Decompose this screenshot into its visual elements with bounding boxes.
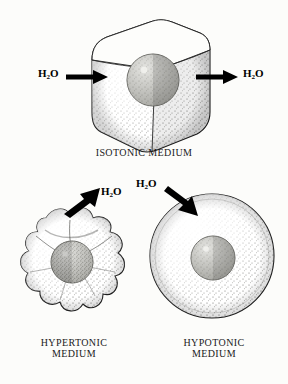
water-out-arrow-hypertonic (62, 182, 106, 220)
nucleus-hypotonic (191, 236, 235, 280)
h2o-text-tail: O (50, 67, 59, 79)
h2o-text-tail: O (148, 177, 157, 189)
panel-hypotonic: H2O HYPOTONIC MEDIUM (140, 178, 288, 384)
h2o-text-tail: O (113, 185, 122, 197)
h2o-subscript: 2 (145, 183, 149, 191)
nucleus-isotonic (127, 54, 179, 106)
panel-hypertonic: H2O HYPERTONIC MEDIUM (0, 178, 148, 384)
caption-hypertonic: HYPERTONIC MEDIUM (4, 337, 144, 359)
hypotonic-cell-figure (140, 188, 288, 333)
h2o-label-hypotonic: H2O (136, 178, 157, 191)
h2o-subscript: 2 (252, 73, 256, 81)
h2o-text: H (243, 67, 252, 79)
h2o-text: H (136, 177, 145, 189)
h2o-label-hypertonic: H2O (101, 186, 122, 199)
caption-hypotonic: HYPOTONIC MEDIUM (144, 337, 284, 359)
hypertonic-cell-figure (0, 200, 148, 345)
osmosis-diagram: H2O H2O ISOTONIC MEDIUM (0, 0, 288, 384)
water-in-arrow-hypotonic (166, 183, 210, 221)
water-in-arrow-isotonic (66, 68, 116, 88)
h2o-text: H (101, 185, 110, 197)
h2o-text-tail: O (255, 67, 264, 79)
water-out-arrow-isotonic (196, 68, 246, 88)
h2o-subscript: 2 (110, 191, 114, 199)
h2o-text: H (38, 67, 47, 79)
nucleus-hypertonic (51, 241, 93, 283)
panel-isotonic: H2O H2O ISOTONIC MEDIUM (0, 0, 288, 170)
h2o-subscript: 2 (47, 73, 51, 81)
h2o-label-isotonic-left: H2O (38, 68, 59, 81)
caption-isotonic: ISOTONIC MEDIUM (44, 147, 244, 158)
h2o-label-isotonic-right: H2O (243, 68, 264, 81)
